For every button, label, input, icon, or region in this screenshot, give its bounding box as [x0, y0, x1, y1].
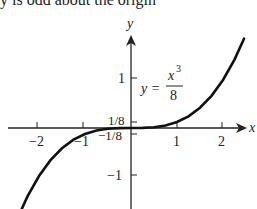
y-tick-label: 1/8 — [108, 113, 125, 128]
y-ticks — [131, 78, 137, 175]
equation-exponent: 3 — [176, 63, 181, 74]
x-tick-label: 1 — [173, 134, 180, 149]
x-axis-label: x — [248, 120, 256, 135]
x-tick-label: −2 — [29, 134, 44, 149]
y-tick-label: −1 — [107, 168, 122, 183]
x-tick-label: 2 — [218, 134, 225, 149]
equation-numerator: x — [167, 68, 175, 83]
y-axis-label: y — [125, 16, 134, 31]
cubic-function-graph: x y −2 −1 1 2 1 1/8 −1/8 −1 y = x 3 8 — [0, 0, 257, 209]
y-tick-label: 1 — [118, 71, 125, 86]
function-label: y = x 3 8 — [139, 63, 183, 103]
cubic-curve — [16, 39, 244, 209]
equation-lhs: y = — [139, 81, 160, 96]
x-tick-label: −1 — [74, 134, 89, 149]
equation-denominator: 8 — [170, 88, 177, 103]
y-tick-label: −1/8 — [98, 128, 122, 143]
